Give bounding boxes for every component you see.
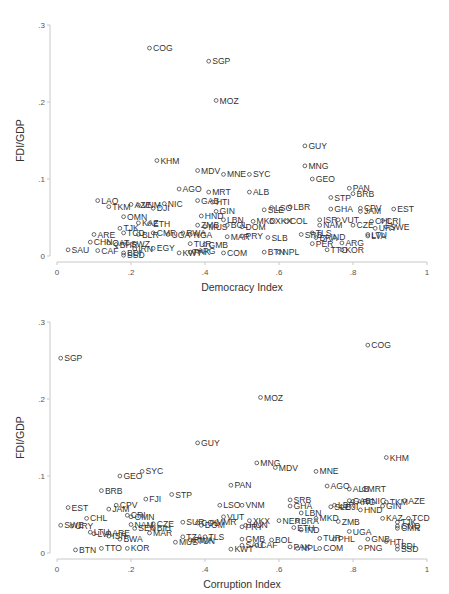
data-point-alb: ALB — [248, 187, 270, 197]
point-label: EGY — [157, 243, 175, 253]
marker-circle-icon — [66, 248, 70, 252]
point-label: MOZ — [264, 393, 283, 403]
point-label: CAF — [260, 540, 277, 550]
y-tick-label: .3 — [38, 21, 45, 30]
data-point-kwt: KWT — [229, 544, 254, 554]
marker-circle-icon — [384, 456, 388, 460]
scatter-panel-democracy: 0.1.2.30.2.4.6.81Democracy IndexFDI/GDPC… — [0, 0, 449, 297]
marker-circle-icon — [214, 99, 218, 103]
point-label: LSO — [223, 500, 241, 510]
point-label: FJI — [149, 494, 161, 504]
marker-circle-icon — [88, 240, 92, 244]
marker-circle-icon — [196, 169, 200, 173]
marker-circle-icon — [96, 199, 100, 203]
point-label: STP — [334, 193, 351, 203]
marker-circle-icon — [122, 215, 126, 219]
marker-circle-icon — [262, 250, 266, 254]
data-point-brb: BRB — [100, 486, 123, 496]
data-point-pan: PAN — [229, 480, 251, 490]
point-label: ALB — [253, 187, 270, 197]
point-label: TKM — [112, 202, 130, 212]
marker-circle-icon — [207, 59, 211, 63]
marker-circle-icon — [240, 525, 244, 529]
marker-circle-icon — [196, 199, 200, 203]
x-axis-title: Democracy Index — [201, 281, 283, 293]
data-point-syc: SYC — [248, 169, 271, 179]
marker-circle-icon — [229, 547, 233, 551]
data-point-tto: TTO — [100, 543, 123, 553]
point-label: SLB — [271, 233, 288, 243]
marker-circle-icon — [129, 523, 133, 527]
point-label: MRT — [368, 484, 387, 494]
scatter-plot-corruption: 0.1.2.30.2.4.6.81Corruption IndexFDI/GDP… — [0, 297, 449, 594]
marker-circle-icon — [196, 441, 200, 445]
point-label: TUN — [197, 536, 215, 546]
data-point-khm: KHM — [384, 453, 409, 463]
data-point-guy: GUY — [196, 438, 220, 448]
point-label: MKD — [320, 513, 339, 523]
marker-circle-icon — [292, 526, 296, 530]
point-label: GUY — [201, 438, 220, 448]
point-label: DOM — [205, 520, 225, 530]
point-label: TTO — [105, 543, 122, 553]
point-label: ZMB — [342, 517, 360, 527]
point-label: COG — [371, 340, 391, 350]
marker-circle-icon — [174, 540, 178, 544]
data-point-fji: FJI — [144, 494, 161, 504]
marker-circle-icon — [96, 249, 100, 253]
marker-circle-icon — [392, 207, 396, 211]
data-point-moz: MOZ — [259, 393, 283, 403]
point-label: JAM — [364, 206, 381, 216]
point-label: MNE — [320, 466, 339, 476]
data-point-ago: AGO — [177, 184, 202, 194]
data-point-sgp: SGP — [59, 353, 83, 363]
point-label: PAN — [234, 480, 251, 490]
point-label: CMR — [401, 523, 421, 533]
data-point-est: EST — [392, 204, 415, 214]
point-label: MOZ — [220, 96, 239, 106]
marker-circle-icon — [240, 503, 244, 507]
marker-circle-icon — [100, 489, 104, 493]
data-point-syc: SYC — [140, 466, 163, 476]
marker-circle-icon — [310, 177, 314, 181]
point-label: EST — [72, 503, 89, 513]
point-label: KOR — [345, 245, 364, 255]
marker-circle-icon — [225, 235, 229, 239]
y-tick-label: 0 — [41, 549, 46, 558]
data-point-jam: JAM — [107, 504, 130, 514]
marker-circle-icon — [366, 537, 370, 541]
marker-circle-icon — [325, 484, 329, 488]
data-point-egy: EGY — [151, 243, 175, 253]
marker-circle-icon — [347, 530, 351, 534]
data-point-sau: SAU — [66, 245, 89, 255]
marker-circle-icon — [207, 190, 211, 194]
point-label: GUY — [308, 141, 327, 151]
data-point-geo: GEO — [310, 174, 335, 184]
marker-circle-icon — [299, 511, 303, 515]
point-label: SSD — [127, 250, 145, 260]
x-tick-label: .4 — [202, 565, 209, 574]
data-point-com: COM — [318, 543, 343, 553]
point-label: BTN — [79, 545, 96, 555]
y-tick-label: .3 — [38, 318, 45, 327]
marker-circle-icon — [314, 469, 318, 473]
x-axis-title: Corruption Index — [203, 578, 281, 590]
x-tick-label: .2 — [128, 268, 135, 277]
point-label: GIN — [386, 501, 401, 511]
marker-circle-icon — [288, 504, 292, 508]
point-label: SGP — [212, 56, 230, 66]
point-label: MDV — [201, 166, 220, 176]
marker-circle-icon — [148, 46, 152, 50]
point-label: NPL — [283, 247, 300, 257]
point-label: MNG — [260, 458, 280, 468]
point-label: STP — [175, 490, 192, 500]
point-label: JAM — [112, 504, 129, 514]
data-point-slb: SLB — [266, 233, 288, 243]
point-label: SGP — [64, 353, 82, 363]
marker-circle-icon — [318, 536, 322, 540]
scatter-panel-corruption: 0.1.2.30.2.4.6.81Corruption IndexFDI/GDP… — [0, 297, 449, 594]
data-point-cog: COG — [366, 340, 391, 350]
data-point-cog: COG — [148, 43, 173, 53]
data-point-sle: SLE — [262, 205, 284, 215]
marker-circle-icon — [100, 546, 104, 550]
